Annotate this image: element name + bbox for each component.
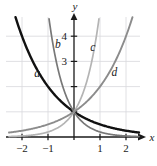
- curve-label-a: a: [34, 67, 40, 79]
- y-tick-label: 3: [62, 55, 68, 67]
- y-tick-label: 4: [62, 30, 68, 42]
- axes: [6, 13, 146, 140]
- y-axis-arrowhead: [71, 13, 78, 20]
- gridlines: [6, 17, 140, 140]
- y-axis-name: y: [72, 0, 78, 12]
- curve-label-d: d: [111, 66, 117, 78]
- x-tick-label: 2: [123, 142, 129, 154]
- exponential-functions-figure: −2−11234 abcd xy: [0, 0, 157, 166]
- curve-label-b: b: [55, 38, 61, 50]
- x-tick-label: −2: [16, 142, 28, 154]
- curve-labels: abcd: [34, 38, 117, 79]
- x-tick-label: 1: [97, 142, 103, 154]
- x-axis-name: x: [149, 131, 155, 143]
- curve-label-c: c: [90, 41, 95, 53]
- x-tick-label: −1: [42, 142, 54, 154]
- graph-canvas: −2−11234 abcd xy: [0, 0, 157, 166]
